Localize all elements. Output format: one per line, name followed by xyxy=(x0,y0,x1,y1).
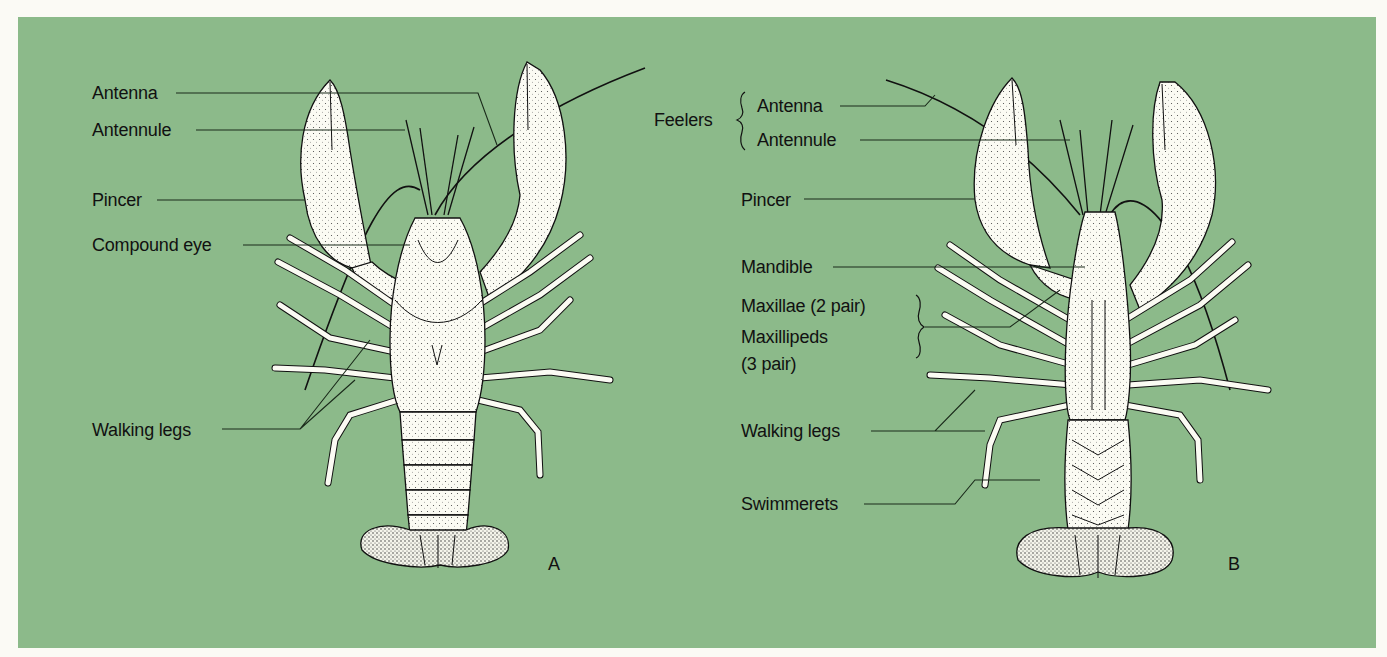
label-b-pincer: Pincer xyxy=(741,190,791,210)
label-a-antennule: Antennule xyxy=(92,120,171,140)
label-b-maxillae: Maxillae (2 pair) xyxy=(741,296,866,316)
label-b-maxillipeds: Maxillipeds xyxy=(741,327,828,347)
crayfish-b-ventral xyxy=(886,78,1268,578)
crayfish-illustrations xyxy=(0,0,1387,657)
figure-letter-a: A xyxy=(548,554,560,575)
label-b-maxillipeds-count: (3 pair) xyxy=(741,354,796,374)
label-b-antenna: Antenna xyxy=(757,96,823,116)
crayfish-a-dorsal xyxy=(275,62,645,568)
label-a-compound-eye: Compound eye xyxy=(92,235,212,255)
label-a-antenna: Antenna xyxy=(92,83,158,103)
label-b-walking-legs: Walking legs xyxy=(741,421,840,441)
label-b-swimmerets: Swimmerets xyxy=(741,494,838,514)
label-b-antennule: Antennule xyxy=(757,130,836,150)
figure-letter-b: B xyxy=(1228,554,1240,575)
label-a-pincer: Pincer xyxy=(92,190,142,210)
label-b-feelers: Feelers xyxy=(654,110,713,130)
label-b-mandible: Mandible xyxy=(741,257,812,277)
label-a-walking-legs: Walking legs xyxy=(92,420,191,440)
